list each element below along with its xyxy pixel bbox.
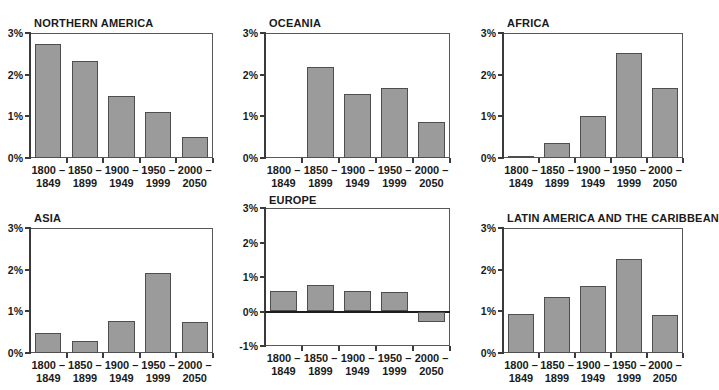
x-axis-category-label: 1900 –1949 (573, 164, 613, 190)
x-axis-category-label: 2000 –2050 (645, 164, 685, 190)
category-label-line2: 2050 (411, 177, 452, 190)
category-label-line1: 1800 – (501, 359, 541, 372)
category-label-line2: 1999 (138, 177, 179, 190)
x-tick-mark (212, 353, 214, 358)
y-tick-mark (25, 352, 30, 354)
y-axis-tick-label: 0% (231, 307, 258, 317)
chart-panel: ASIA0%1%2%3%1800 –18491850 –18991900 –19… (0, 195, 232, 390)
y-axis-tick-label: 3% (469, 223, 496, 233)
bar (108, 321, 134, 354)
category-label-line2: 1949 (101, 177, 142, 190)
y-axis-tick-label: 1% (469, 306, 496, 316)
x-axis-category-label: 1950 –1999 (138, 359, 179, 385)
x-axis-category-label: 2000 –2050 (174, 164, 215, 190)
y-axis-tick-label: 0% (469, 153, 496, 163)
x-tick-mark (646, 158, 648, 163)
y-tick-mark (260, 345, 265, 347)
category-label-line2: 1999 (374, 365, 415, 378)
panel-title: NORTHERN AMERICA (34, 18, 154, 29)
x-axis-category-label: 2000 –2050 (174, 359, 215, 385)
y-tick-mark (260, 242, 265, 244)
y-axis-tick-label: 2% (231, 238, 258, 248)
category-label-line2: 2050 (174, 372, 215, 385)
y-axis-line (502, 227, 504, 354)
panel-title: EUROPE (269, 195, 317, 206)
x-axis-category-label: 1850 –1899 (537, 164, 577, 190)
x-tick-mark (301, 158, 303, 163)
chart-panel: EUROPE-1%0%1%2%3%1800 –18491850 –1899190… (232, 195, 472, 390)
y-axis-tick-label: 1% (0, 306, 23, 316)
x-axis-category-label: 1900 –1949 (101, 164, 142, 190)
y-tick-mark (498, 352, 503, 354)
y-tick-mark (498, 269, 503, 271)
x-tick-mark (301, 346, 303, 351)
x-axis-category-label: 2000 –2050 (411, 164, 452, 190)
category-label-line2: 1849 (501, 177, 541, 190)
x-axis-category-label: 1950 –1999 (609, 359, 649, 385)
x-tick-mark (66, 158, 68, 163)
x-tick-mark (412, 158, 414, 163)
category-label-line1: 1950 – (609, 164, 649, 177)
category-label-line1: 1850 – (65, 359, 106, 372)
category-label-line1: 1950 – (609, 359, 649, 372)
y-axis-tick-label: 2% (469, 70, 496, 80)
category-label-line2: 1899 (65, 177, 106, 190)
x-axis-category-label: 1800 –1849 (501, 164, 541, 190)
y-tick-mark (498, 157, 503, 159)
x-axis-category-label: 1800 –1849 (28, 164, 69, 190)
y-axis-tick-label: 0% (0, 153, 23, 163)
y-tick-mark (260, 207, 265, 209)
plot-area (265, 208, 450, 346)
category-label-line2: 1999 (609, 372, 649, 385)
x-axis-category-label: 1950 –1999 (374, 164, 415, 190)
panel-title: AFRICA (507, 18, 550, 29)
bar (35, 44, 61, 158)
category-label-line1: 2000 – (411, 352, 452, 365)
bar (652, 315, 678, 353)
category-label-line2: 1949 (101, 372, 142, 385)
category-label-line1: 1950 – (138, 164, 179, 177)
y-axis-tick-label: 2% (469, 265, 496, 275)
x-tick-mark (102, 158, 104, 163)
category-label-line2: 1949 (573, 177, 613, 190)
bar (418, 122, 445, 158)
x-axis-category-label: 1950 –1999 (374, 352, 415, 378)
bar (72, 61, 98, 158)
y-tick-mark (25, 115, 30, 117)
y-axis-tick-label: 1% (231, 272, 258, 282)
y-tick-mark (260, 157, 265, 159)
y-axis-tick-label: 3% (231, 28, 258, 38)
x-tick-mark (682, 353, 684, 358)
bar (508, 156, 534, 159)
x-tick-mark (610, 158, 612, 163)
y-axis-tick-label: 1% (469, 111, 496, 121)
category-label-line1: 1800 – (263, 352, 304, 365)
x-axis-category-label: 1800 –1849 (28, 359, 69, 385)
x-tick-mark (574, 158, 576, 163)
bar (307, 67, 334, 158)
bar (108, 96, 134, 158)
y-tick-mark (498, 227, 503, 229)
category-label-line2: 1899 (300, 365, 341, 378)
category-label-line2: 1999 (374, 177, 415, 190)
y-tick-mark (260, 74, 265, 76)
bar (344, 94, 371, 158)
category-label-line2: 2050 (411, 365, 452, 378)
category-label-line2: 2050 (174, 177, 215, 190)
category-label-line2: 1849 (501, 372, 541, 385)
bar (35, 333, 61, 353)
y-axis-tick-label: 0% (0, 348, 23, 358)
x-tick-mark (139, 353, 141, 358)
category-label-line2: 1999 (138, 372, 179, 385)
y-axis-tick-label: 1% (231, 111, 258, 121)
category-label-line2: 2050 (645, 372, 685, 385)
category-label-line2: 1949 (337, 177, 378, 190)
category-label-line1: 2000 – (411, 164, 452, 177)
y-axis-tick-label: 0% (231, 153, 258, 163)
bar (270, 291, 297, 312)
y-axis-tick-label: 3% (231, 203, 258, 213)
y-tick-mark (25, 157, 30, 159)
y-axis-tick-label: 2% (231, 70, 258, 80)
category-label-line2: 1999 (609, 177, 649, 190)
